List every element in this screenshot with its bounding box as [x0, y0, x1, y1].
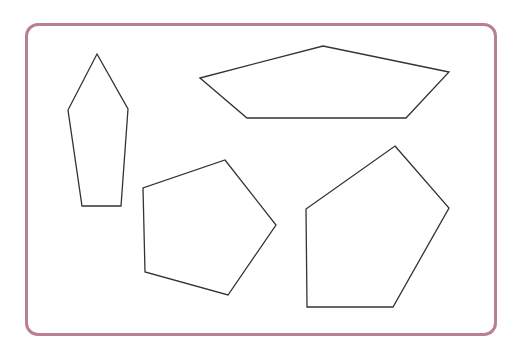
- shape-irregular-pentagon: [306, 146, 449, 307]
- shape-tall-pentagon: [68, 54, 128, 206]
- shape-wide-pentagon: [200, 46, 449, 118]
- shapes-canvas: [0, 0, 523, 355]
- shape-regular-pentagon: [143, 160, 276, 295]
